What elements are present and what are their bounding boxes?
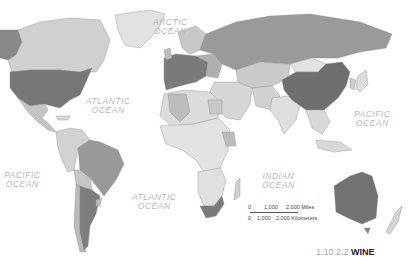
ocean-label-atlantic-north: ATLANTIC OCEAN — [86, 97, 130, 115]
world-map — [0, 0, 417, 257]
argentina — [80, 186, 100, 250]
ocean-label-indian: INDIAN OCEAN — [262, 172, 295, 190]
ocean-label-arctic: ARCTIC OCEAN — [153, 18, 188, 36]
figure-caption: 1.10.2.2 WINE — [316, 247, 375, 257]
ocean-label-pacific-west: PACIFIC OCEAN — [4, 171, 40, 189]
scale-bar-line — [250, 212, 298, 213]
central-africa — [160, 118, 230, 172]
japan — [356, 70, 368, 92]
ocean-label-pacific-east: PACIFIC OCEAN — [354, 110, 390, 128]
canada — [8, 18, 110, 72]
new-zealand — [386, 206, 402, 234]
western-europe — [164, 54, 208, 90]
scale-bar: 0 1,000 2,000 Miles 0 1,000 2,000 Kilome… — [248, 203, 348, 225]
russia — [200, 14, 392, 70]
ocean-label-atlantic-south: ATLANTIC OCEAN — [132, 193, 176, 211]
